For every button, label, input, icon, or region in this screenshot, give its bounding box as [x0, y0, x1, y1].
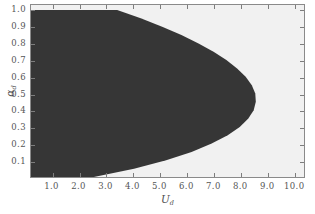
x-tick-label: 8.0	[233, 181, 248, 191]
x-tick	[53, 173, 54, 177]
x-tick	[53, 5, 54, 9]
x-tick-label: 2.0	[71, 181, 86, 191]
y-tick	[300, 44, 304, 45]
x-tick-label: 5.0	[152, 181, 167, 191]
x-tick	[187, 5, 188, 9]
x-tick	[268, 173, 269, 177]
region-shading-layer	[31, 5, 304, 177]
y-axis-label-subscript: d	[10, 85, 18, 89]
x-tick	[106, 5, 107, 9]
x-tick	[268, 5, 269, 9]
x-axis-label-main: U	[161, 193, 170, 205]
x-axis-label-subscript: d	[170, 199, 174, 207]
y-tick	[300, 145, 304, 146]
y-axis-label-main: α	[4, 90, 16, 97]
x-tick-label: 10.0	[284, 181, 305, 191]
x-tick-label: 9.0	[260, 181, 275, 191]
x-tick	[295, 173, 296, 177]
x-tick	[133, 173, 134, 177]
y-tick	[300, 10, 304, 11]
y-tick-label: 0.2	[26, 139, 41, 149]
y-tick-label: 0.7	[26, 55, 41, 65]
x-tick	[187, 173, 188, 177]
x-tick-label: 1.0	[44, 181, 59, 191]
x-tick	[295, 5, 296, 9]
y-tick-label: 0.8	[26, 38, 41, 48]
y-tick	[300, 128, 304, 129]
x-tick-label: 4.0	[125, 181, 140, 191]
y-tick	[300, 61, 304, 62]
x-tick	[241, 5, 242, 9]
y-tick-label: 0.4	[26, 105, 41, 115]
plot-area	[30, 4, 305, 178]
x-tick	[160, 173, 161, 177]
x-tick-label: 7.0	[206, 181, 221, 191]
x-tick-label: 3.0	[98, 181, 113, 191]
y-tick-label: 1.0	[26, 4, 41, 14]
y-tick	[300, 111, 304, 112]
y-tick-label: 0.6	[26, 72, 41, 82]
x-tick	[160, 5, 161, 9]
x-tick	[133, 5, 134, 9]
x-tick	[80, 5, 81, 9]
y-tick-label: 0.3	[26, 122, 41, 132]
y-tick-label: 0.5	[26, 89, 41, 99]
y-tick-label: 0.1	[26, 156, 41, 166]
x-tick	[241, 173, 242, 177]
x-tick	[214, 173, 215, 177]
y-tick	[300, 95, 304, 96]
x-tick	[80, 173, 81, 177]
y-tick-label: 0.9	[26, 21, 41, 31]
x-tick	[106, 173, 107, 177]
x-tick	[214, 5, 215, 9]
phase-diagram-figure: 1.02.03.04.05.06.07.08.09.010.00.10.20.3…	[0, 0, 315, 214]
y-tick	[300, 27, 304, 28]
y-tick	[300, 162, 304, 163]
x-axis-label: Ud	[30, 193, 305, 207]
y-tick	[300, 78, 304, 79]
x-tick-label: 6.0	[179, 181, 194, 191]
y-axis-label: αd	[4, 76, 18, 106]
